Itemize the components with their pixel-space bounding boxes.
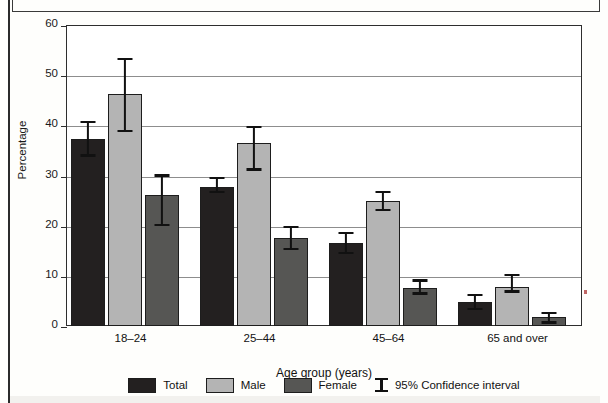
error-bar-stem bbox=[123, 58, 125, 132]
error-bar-cap-top bbox=[375, 191, 390, 193]
error-bar-cap-bottom bbox=[246, 168, 261, 170]
error-bar-cap-bottom bbox=[283, 248, 298, 250]
error-bar-cap-bottom bbox=[117, 130, 132, 132]
scan-speck bbox=[584, 290, 587, 294]
error-bar-cap-bottom bbox=[504, 290, 519, 292]
legend: TotalMaleFemale95% Confidence interval bbox=[66, 377, 582, 393]
error-bar-cap-bottom bbox=[541, 321, 556, 323]
legend-swatch-female-icon bbox=[284, 378, 312, 393]
error-bar-cap-top bbox=[541, 312, 556, 314]
legend-label: Total bbox=[163, 379, 187, 391]
y-axis-tick-label: 30 bbox=[32, 168, 58, 180]
legend-label: Male bbox=[241, 379, 266, 391]
bar-group bbox=[200, 25, 308, 326]
y-axis-tick-label: 20 bbox=[32, 218, 58, 230]
error-bar-cap-bottom bbox=[80, 154, 95, 156]
error-bar-cap-bottom bbox=[154, 224, 169, 226]
error-bar-stem bbox=[344, 232, 346, 255]
page-rule-left bbox=[8, 0, 10, 403]
error-bar-cap-top bbox=[154, 174, 169, 176]
y-axis-tick bbox=[61, 327, 67, 328]
error-bar-cap-top bbox=[338, 232, 353, 234]
error-bar-cap-top bbox=[80, 121, 95, 123]
page-rule-bottom bbox=[10, 396, 600, 403]
error-bar-cap-top bbox=[246, 126, 261, 128]
error-bar-cap-bottom bbox=[412, 292, 427, 294]
x-axis-category-label: 18–24 bbox=[66, 332, 195, 344]
error-bar-stem bbox=[160, 174, 162, 225]
error-bar-cap-top bbox=[209, 177, 224, 179]
bar-male[interactable] bbox=[495, 287, 529, 326]
legend-item-female[interactable]: Female bbox=[284, 378, 357, 393]
bar-group bbox=[329, 25, 437, 326]
legend-label: 95% Confidence interval bbox=[395, 379, 520, 391]
error-bar-cap-bottom bbox=[209, 191, 224, 193]
y-axis-tick-label: 50 bbox=[32, 67, 58, 79]
x-axis-category-label: 65 and over bbox=[453, 332, 582, 344]
error-bar-stem bbox=[289, 226, 291, 250]
y-axis-tick-label: 0 bbox=[32, 318, 58, 330]
error-bar-icon bbox=[375, 377, 388, 393]
y-axis-label: Percentage bbox=[16, 121, 28, 180]
error-bar-cap-bottom bbox=[375, 209, 390, 211]
legend-item-confidence-interval[interactable]: 95% Confidence interval bbox=[375, 377, 520, 393]
legend-item-male[interactable]: Male bbox=[206, 378, 266, 393]
error-bar-cap-top bbox=[412, 279, 427, 281]
bar-female[interactable] bbox=[274, 238, 308, 326]
error-bar-stem bbox=[381, 191, 383, 211]
y-axis-tick-label: 10 bbox=[32, 268, 58, 280]
error-bar-cap-top bbox=[467, 294, 482, 296]
bars-layer bbox=[66, 25, 582, 326]
error-bar-cap-top bbox=[283, 226, 298, 228]
error-bar-cap-bottom bbox=[338, 252, 353, 254]
error-bar-stem bbox=[252, 126, 254, 171]
y-axis-tick-label: 60 bbox=[32, 17, 58, 29]
bar-total[interactable] bbox=[71, 139, 105, 326]
bar-male[interactable] bbox=[366, 201, 400, 326]
bar-group bbox=[458, 25, 566, 326]
legend-swatch-male-icon bbox=[206, 378, 234, 393]
page-rule-top bbox=[12, 0, 600, 12]
x-axis-category-label: 25–44 bbox=[195, 332, 324, 344]
y-axis-tick-label: 40 bbox=[32, 117, 58, 129]
x-axis-category-label: 45–64 bbox=[324, 332, 453, 344]
bar-total[interactable] bbox=[200, 187, 234, 326]
figure-bar-chart: Percentage 6050403020100 18–2425–4445–64… bbox=[0, 0, 608, 403]
bar-total[interactable] bbox=[329, 243, 363, 326]
error-bar-cap-bottom bbox=[467, 308, 482, 310]
legend-swatch-total-icon bbox=[128, 378, 156, 393]
legend-label: Female bbox=[319, 379, 357, 391]
legend-item-total[interactable]: Total bbox=[128, 378, 187, 393]
error-bar-cap-top bbox=[117, 58, 132, 60]
error-bar-cap-top bbox=[504, 274, 519, 276]
bar-group bbox=[71, 25, 179, 326]
error-bar-stem bbox=[86, 121, 88, 157]
